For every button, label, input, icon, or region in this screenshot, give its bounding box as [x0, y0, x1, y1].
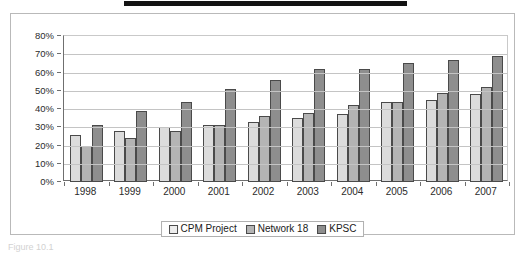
bar[interactable] [214, 125, 225, 182]
legend-swatch-icon [317, 225, 326, 234]
legend-swatch-icon [169, 225, 178, 234]
bar[interactable] [381, 102, 392, 182]
bar[interactable] [481, 87, 492, 182]
x-axis-tick-label: 1999 [108, 185, 153, 199]
bar[interactable] [337, 114, 348, 182]
x-axis-tick-label: 2004 [330, 185, 375, 199]
y-axis-tick [57, 163, 61, 164]
x-axis-tick-label: 2005 [375, 185, 420, 199]
y-axis-tick [57, 145, 61, 146]
bar[interactable] [470, 94, 481, 182]
legend-label: CPM Project [181, 224, 237, 234]
gridline [64, 54, 507, 55]
legend-item[interactable]: KPSC [317, 224, 356, 234]
y-axis-tick [57, 181, 61, 182]
y-axis: 80%70%60%50%40%30%20%10%0% [11, 35, 61, 183]
bar[interactable] [426, 100, 437, 182]
bar[interactable] [348, 105, 359, 182]
bar[interactable] [170, 131, 181, 182]
x-axis-tick-label: 2002 [241, 185, 286, 199]
y-axis-tick-label: 70% [35, 49, 54, 59]
chart-frame: 80%70%60%50%40%30%20%10%0% 1998199920002… [10, 13, 515, 235]
y-axis-tick-label: 60% [35, 68, 54, 78]
gridline [64, 164, 507, 165]
bar[interactable] [259, 116, 270, 182]
bar[interactable] [114, 131, 125, 182]
legend-label: Network 18 [258, 224, 309, 234]
bar[interactable] [225, 89, 236, 182]
plot-background [63, 35, 508, 181]
x-axis-tick-label: 2006 [419, 185, 464, 199]
y-axis-tick-label: 30% [35, 122, 54, 132]
figure-caption: Figure 10.1 [8, 243, 188, 252]
legend-item[interactable]: CPM Project [169, 224, 237, 234]
x-axis-labels: 1998199920002001200220032004200520062007 [63, 185, 508, 199]
x-axis-tick-label: 2001 [197, 185, 242, 199]
x-axis-tick-label: 1998 [63, 185, 108, 199]
bar[interactable] [92, 125, 103, 182]
bar[interactable] [270, 80, 281, 182]
x-axis-tick-label: 2000 [152, 185, 197, 199]
gridline [64, 91, 507, 92]
y-axis-tick-label: 20% [35, 141, 54, 151]
y-axis-tick [57, 72, 61, 73]
gridline [64, 73, 507, 74]
bar[interactable] [248, 122, 259, 182]
y-axis-tick [57, 35, 61, 36]
y-axis-tick-label: 0% [40, 177, 54, 187]
bar[interactable] [437, 93, 448, 182]
y-axis-tick-label: 50% [35, 86, 54, 96]
y-axis-tick [57, 126, 61, 127]
x-axis-tick [509, 182, 510, 186]
y-axis-tick [57, 108, 61, 109]
x-axis-tick-label: 2003 [286, 185, 331, 199]
y-axis-tick-label: 80% [35, 31, 54, 41]
x-axis-tick-label: 2007 [464, 185, 509, 199]
chart-page: 80%70%60%50%40%30%20%10%0% 1998199920002… [0, 0, 529, 255]
bar[interactable] [181, 102, 192, 182]
y-axis-tick [57, 53, 61, 54]
plot-area [63, 35, 508, 195]
gridline [64, 109, 507, 110]
gridline [64, 127, 507, 128]
legend-item[interactable]: Network 18 [246, 224, 309, 234]
y-axis-tick-label: 10% [35, 159, 54, 169]
bar[interactable] [70, 135, 81, 182]
bar[interactable] [159, 127, 170, 182]
bar[interactable] [303, 113, 314, 182]
bar[interactable] [203, 125, 214, 182]
bar[interactable] [359, 69, 370, 182]
legend-label: KPSC [329, 224, 356, 234]
bar[interactable] [392, 102, 403, 182]
redaction-bar [124, 1, 407, 6]
gridline [64, 146, 507, 147]
y-axis-tick-label: 40% [35, 104, 54, 114]
legend-swatch-icon [246, 225, 255, 234]
chart-legend: CPM ProjectNetwork 18KPSC [161, 221, 365, 237]
y-axis-tick [57, 90, 61, 91]
bar[interactable] [314, 69, 325, 182]
